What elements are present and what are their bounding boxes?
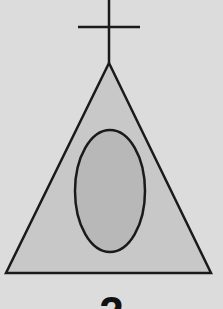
oval [75, 130, 145, 252]
cross-symbol [78, 0, 140, 63]
figure-number-label: 2 [0, 291, 223, 309]
figure-canvas: 2 [0, 0, 223, 309]
figure-drawing [0, 0, 223, 309]
